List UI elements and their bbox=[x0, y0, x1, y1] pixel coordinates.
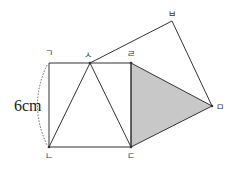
label-mieum: ㅁ bbox=[216, 102, 224, 112]
vertex-dot-mieum bbox=[211, 105, 214, 108]
measurement-label: 6cm bbox=[14, 97, 42, 114]
label-bieup: ㅂ bbox=[168, 9, 176, 19]
label-giyeok: ㄱ bbox=[45, 48, 53, 58]
shaded-triangle bbox=[131, 63, 212, 147]
label-siot: ㅅ bbox=[84, 50, 92, 60]
geometry-figure: ㄱ ㅅ ㄹ ㄴ ㄷ ㅂ ㅁ 6cm bbox=[0, 0, 237, 169]
square-giyeok-nieun-digeut-rieul bbox=[49, 63, 131, 147]
label-digeut: ㄷ bbox=[127, 151, 135, 161]
vertex-dot-digeut bbox=[130, 146, 133, 149]
vertex-dot-nieun bbox=[48, 146, 51, 149]
vertex-dot-rieul bbox=[130, 62, 133, 65]
triangle-siot-nieun-digeut bbox=[49, 63, 131, 147]
vertex-dot-siot bbox=[89, 62, 92, 65]
label-nieun: ㄴ bbox=[45, 151, 53, 161]
label-rieul: ㄹ bbox=[127, 49, 135, 59]
